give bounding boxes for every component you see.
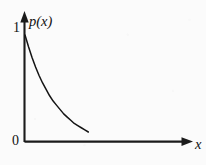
origin-label-zero: 0 bbox=[12, 133, 19, 148]
x-axis-label: x bbox=[194, 136, 202, 152]
figure-root: 1 0 p(x) x bbox=[0, 0, 206, 165]
y-tick-label-one: 1 bbox=[13, 20, 20, 35]
label-layer: 1 0 p(x) x bbox=[0, 0, 206, 165]
y-axis-label: p(x) bbox=[28, 13, 53, 30]
